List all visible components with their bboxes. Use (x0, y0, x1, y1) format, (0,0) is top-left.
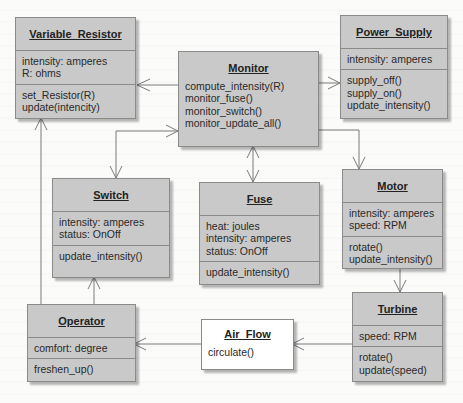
class-title: Switch (53, 179, 169, 211)
attributes-section: intensity: amperes status: OnOff (53, 211, 169, 245)
operation: update(speed) (359, 364, 436, 377)
operation: compute_intensity(R) (185, 80, 312, 93)
attributes-section: comfort: degree (28, 337, 135, 359)
class-title: Fuse (200, 183, 319, 215)
operations-section: update_intensity() (200, 261, 319, 283)
class-title: Variable_Resistor (16, 18, 135, 50)
attribute: intensity: amperes (349, 207, 436, 220)
class-turbine[interactable]: Turbine speed: RPM rotate() update(speed… (352, 292, 443, 382)
class-power-supply[interactable]: Power_Supply intensity: amperes supply_o… (340, 15, 448, 119)
attribute: intensity: amperes (206, 232, 313, 245)
operation: update_intensity() (347, 99, 441, 112)
operation: circulate() (208, 346, 287, 359)
attribute: R: ohms (22, 67, 129, 80)
class-title: Operator (28, 305, 135, 337)
operation: rotate() (349, 241, 436, 254)
class-title: Monitor (179, 52, 318, 80)
operations-section: rotate() update_intensity() (343, 236, 442, 270)
operation: update(intencity) (22, 101, 129, 114)
class-monitor[interactable]: Monitor compute_intensity(R) monitor_fus… (178, 51, 319, 147)
class-motor[interactable]: Motor intensity: amperes speed: RPM rota… (342, 169, 443, 269)
operation: freshen_up() (34, 363, 129, 376)
operation: update_intensity() (59, 250, 163, 263)
operation: rotate() (359, 351, 436, 364)
operation: supply_on() (347, 87, 441, 100)
class-title: Motor (343, 170, 442, 202)
attribute: heat: joules (206, 220, 313, 233)
operations-section: circulate() (202, 346, 293, 363)
operation: update_intensity() (349, 253, 436, 266)
attributes-section: speed: RPM (353, 325, 442, 347)
operation: monitor_fuse() (185, 92, 312, 105)
attribute: status: OnOff (206, 245, 313, 258)
operation: monitor_update_all() (185, 117, 312, 130)
class-variable-resistor[interactable]: Variable_Resistor intensity: amperes R: … (15, 17, 136, 119)
attributes-section: intensity: amperes (341, 48, 447, 70)
class-fuse[interactable]: Fuse heat: joules intensity: amperes sta… (199, 182, 320, 285)
assoc-monitor-motor (318, 130, 359, 169)
class-title: Turbine (353, 293, 442, 325)
operations-section: rotate() update(speed) (353, 346, 442, 380)
attribute: speed: RPM (359, 330, 436, 343)
operations-section: compute_intensity(R) monitor_fuse() moni… (179, 80, 318, 134)
attribute: status: OnOff (59, 228, 163, 241)
class-title: Air_Flow (202, 320, 293, 346)
class-switch[interactable]: Switch intensity: amperes status: OnOff … (52, 178, 170, 278)
attributes-section: intensity: amperes R: ohms (16, 50, 135, 84)
attribute: intensity: amperes (347, 53, 441, 66)
attributes-section: heat: joules intensity: amperes status: … (200, 215, 319, 262)
attribute: comfort: degree (34, 342, 129, 355)
operations-section: freshen_up() (28, 358, 135, 380)
attribute: intensity: amperes (22, 55, 129, 68)
operation: supply_off() (347, 74, 441, 87)
class-air-flow[interactable]: Air_Flow circulate() (201, 319, 294, 370)
attributes-section: intensity: amperes speed: RPM (343, 202, 442, 236)
assoc-monitor-switch (116, 131, 178, 178)
attribute: speed: RPM (349, 219, 436, 232)
attribute: intensity: amperes (59, 216, 163, 229)
operation: set_Resistor(R) (22, 89, 129, 102)
class-title: Power_Supply (341, 16, 447, 48)
operation: monitor_switch() (185, 105, 312, 118)
class-operator[interactable]: Operator comfort: degree freshen_up() (27, 304, 136, 382)
operations-section: set_Resistor(R) update(intencity) (16, 84, 135, 118)
operation: update_intensity() (206, 266, 313, 279)
operations-section: supply_off() supply_on() update_intensit… (341, 69, 447, 116)
operations-section: update_intensity() (53, 245, 169, 267)
